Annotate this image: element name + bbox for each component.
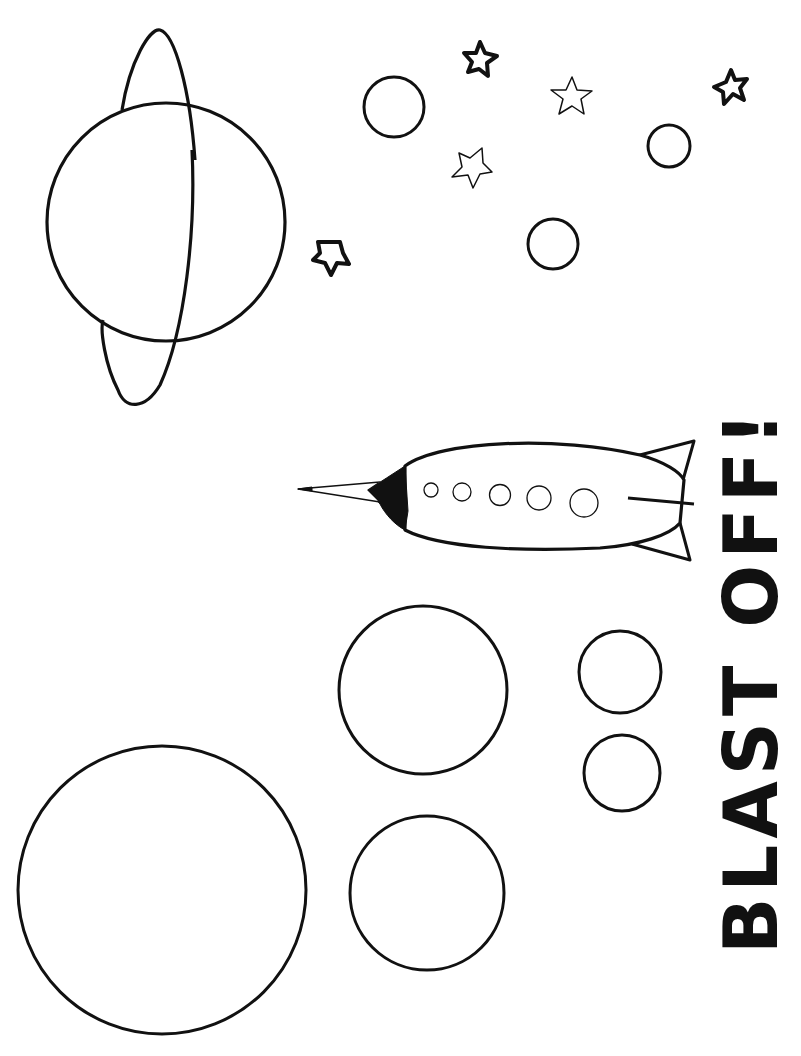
rocket-body bbox=[405, 443, 684, 549]
coloring-page-canvas bbox=[0, 0, 801, 1056]
title-container: BLAST OFF! bbox=[706, 420, 796, 940]
blast-off-title: BLAST OFF! bbox=[714, 406, 788, 954]
